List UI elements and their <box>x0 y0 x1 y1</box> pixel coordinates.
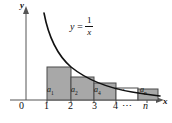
x-tick-label-n: n <box>143 101 148 111</box>
rectangle-label-a2: a2 <box>71 86 78 96</box>
rectangle-label-a2-subscript: 2 <box>75 90 78 96</box>
x-tick-ellipsis: ⋯ <box>122 101 133 111</box>
y-axis-label: y <box>20 1 24 10</box>
rectangle-label-an: an <box>140 86 147 96</box>
origin-label: 0 <box>19 101 24 111</box>
equation-fraction: 1 x <box>85 16 93 37</box>
curve-equation-label: y = 1 x <box>70 16 93 37</box>
x-tick-label-3: 3 <box>92 101 97 111</box>
x-tick-label-4: 4 <box>113 101 118 111</box>
rectangle-label-an-subscript: n <box>144 90 147 96</box>
rectangle-label-a1: a1 <box>47 86 54 96</box>
equation-lhs: y <box>70 22 74 32</box>
y-axis <box>23 6 29 100</box>
rectangle-gap-ellipsis: ⋯ <box>117 86 126 94</box>
equation-relation: = <box>76 22 83 32</box>
equation-numerator: 1 <box>86 16 93 25</box>
rectangle-label-a4-subscript: 4 <box>98 90 101 96</box>
x-tick-label-1: 1 <box>44 101 49 111</box>
equation-denominator: x <box>86 28 92 37</box>
x-tick-label-2: 2 <box>68 101 73 111</box>
x-axis-label: x <box>163 97 168 106</box>
rectangle-label-a4: a4 <box>94 86 101 96</box>
figure-integral-test: y x 0 1 2 3 4 ⋯ n a1 a2 a4 ⋯ an y = 1 x <box>0 0 172 123</box>
rectangle-label-a1-subscript: 1 <box>51 90 54 96</box>
